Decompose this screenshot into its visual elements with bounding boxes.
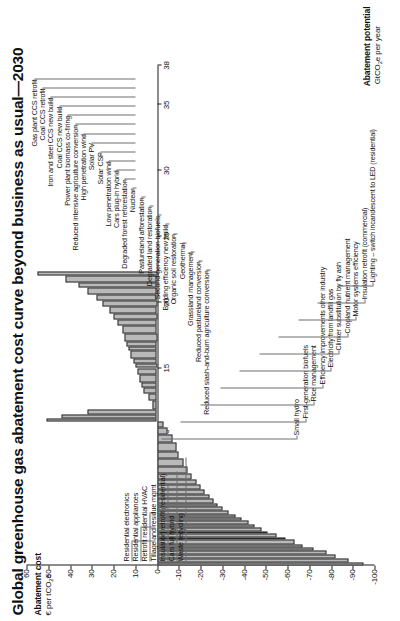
callout-leader-vertical <box>67 115 135 116</box>
callout-label: Tillage and residue mgmt <box>149 484 157 561</box>
bar <box>157 421 164 427</box>
callout-leader-vertical <box>198 260 202 261</box>
callout-leader-horizontal <box>182 243 183 247</box>
callout-leader-horizontal <box>50 97 51 101</box>
callout-leader-vertical <box>220 387 322 388</box>
callout-leader-horizontal <box>132 188 133 192</box>
bar <box>141 382 156 387</box>
callout-leader-vertical <box>337 285 372 286</box>
y-tick-label: -30 <box>217 569 226 580</box>
y-tick-label: -100 <box>370 569 379 584</box>
callout-leader-vertical <box>317 302 363 303</box>
callout-leader-vertical <box>173 233 177 234</box>
callout-leader-horizontal <box>149 206 150 210</box>
page-title: Global greenhouse gas abatement cost cur… <box>8 47 26 615</box>
callout-leader-horizontal <box>108 161 109 165</box>
callout-leader-horizontal <box>141 197 142 201</box>
y-tick <box>352 565 353 569</box>
callout-leader-vertical <box>34 78 135 79</box>
bar <box>157 434 172 442</box>
callout-leader-horizontal <box>185 457 186 561</box>
y-tick-label: -90 <box>348 569 357 580</box>
callout-leader-vertical <box>278 336 347 337</box>
callout-leader-horizontal <box>116 170 117 174</box>
y-tick <box>287 565 288 569</box>
y-tick <box>200 565 201 569</box>
y-tick-label: 20 <box>109 569 118 578</box>
y-tick-label: -70 <box>304 569 313 580</box>
x-units-post: e per year <box>372 26 381 61</box>
callout-leader-vertical <box>200 404 313 405</box>
callout-label: Residential appliances <box>131 492 139 561</box>
y-tick <box>178 565 179 569</box>
callout-leader-vertical <box>298 319 355 320</box>
callout-leader-vertical <box>141 197 145 198</box>
callout-label: Nuclear <box>128 188 136 338</box>
callout-leader-horizontal <box>165 224 166 228</box>
y-tick-label: -40 <box>239 569 248 580</box>
callout-leader-horizontal <box>91 143 92 147</box>
callout-label: Insulation retrofit (residential) <box>158 473 166 561</box>
callout-leader-vertical <box>157 215 161 216</box>
callout-leader-horizontal <box>157 215 158 219</box>
callout-leader-vertical <box>149 206 153 207</box>
callout-label: Motor systems efficiency <box>351 241 359 316</box>
callout-leader-vertical <box>116 169 135 170</box>
x-tick <box>157 367 161 368</box>
bar <box>152 400 156 408</box>
callout-leader-horizontal <box>124 179 125 183</box>
y-tick-label: 30 <box>87 569 96 578</box>
callout-label: Lighting – switch incandescent to LED (r… <box>368 129 376 282</box>
figure-frame: Global greenhouse gas abatement cost cur… <box>0 0 400 621</box>
bar <box>157 451 179 458</box>
callout-label: Retrofit residential HVAC <box>140 485 148 561</box>
y-tick <box>222 565 223 569</box>
callout-leader-horizontal <box>42 88 43 92</box>
callout-leader-horizontal <box>100 152 101 156</box>
callout-leader-vertical <box>190 251 194 252</box>
callout-leader-horizontal <box>34 79 35 83</box>
bar <box>157 466 187 473</box>
callout-leader-vertical <box>75 124 135 125</box>
y-tick <box>374 565 375 569</box>
bar <box>157 458 183 466</box>
y-tick-label: 60 <box>22 569 31 578</box>
bar <box>157 442 177 451</box>
callout-label: Residential electronics <box>122 493 130 561</box>
callout-leader-horizontal <box>59 106 60 110</box>
y-tick-label: 10 <box>130 569 139 578</box>
bar <box>157 427 168 434</box>
y-tick <box>331 565 332 569</box>
callout-leader-horizontal <box>67 115 68 119</box>
callout-leader-vertical <box>50 97 134 98</box>
y-tick-label: -60 <box>283 569 292 580</box>
callout-leader-horizontal <box>190 252 191 256</box>
bar <box>148 393 157 400</box>
callout-leader-vertical <box>180 421 304 422</box>
x-tick-label: 35 <box>161 100 170 109</box>
x-tick-label: 30 <box>161 166 170 175</box>
callout-leader-vertical <box>132 187 136 188</box>
callout-label: Reduced slash-and-burn agriculture conve… <box>202 270 210 420</box>
callout-leader-vertical <box>259 353 339 354</box>
y-tick-label: -50 <box>261 569 270 580</box>
plot-area: 6050403020100-10-20-30-40-50-60-70-80-90… <box>26 65 374 565</box>
y-tick-label: 50 <box>43 569 52 578</box>
callout-label: Waste recycling <box>176 513 184 561</box>
callout-leader-vertical <box>182 242 186 243</box>
callout-leader-vertical <box>83 133 135 134</box>
bar <box>139 374 156 382</box>
callout-label: Iron and steel CCS new build <box>46 97 54 247</box>
callout-leader-vertical <box>124 178 135 179</box>
callout-leader-horizontal <box>83 134 84 138</box>
callout-leader-vertical <box>42 87 135 88</box>
bar <box>46 418 157 421</box>
y-units-pre: € per tCO <box>43 581 52 615</box>
callout-leader-vertical <box>165 224 169 225</box>
callout-leader-vertical <box>100 151 135 152</box>
y-tick-label: -10 <box>174 569 183 580</box>
callout-leader-vertical <box>161 438 297 439</box>
callout-label: Solar PV <box>87 143 95 293</box>
x-tick <box>157 104 161 105</box>
callout-leader-vertical <box>91 142 134 143</box>
